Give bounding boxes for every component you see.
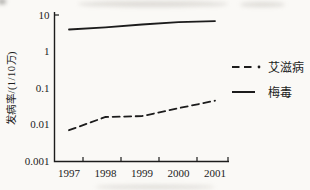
incidence-rate-chart: 1010.10.010.00119971998199920002001 发病率/… [0,0,310,190]
y-tick-label: 0.1 [36,82,50,94]
x-tick-label: 1998 [95,167,118,179]
x-tick-label: 2000 [168,167,191,179]
solid-line-sample [231,86,261,98]
series-line-0 [69,101,215,131]
axes [55,12,230,162]
y-axis-label: 发病率/(1/10万) [3,51,18,125]
x-tick-label: 1997 [58,167,81,179]
legend-item-aids: 艾滋病 [231,58,304,76]
y-tick-label: 1 [44,45,50,57]
legend-label-syphilis: 梅毒 [268,83,292,101]
y-tick-label: 0.001 [25,155,50,167]
legend-label-aids: 艾滋病 [268,58,304,76]
dashed-line-sample [231,61,261,73]
x-tick-label: 1999 [131,167,154,179]
legend: 艾滋病 梅毒 [231,58,304,101]
legend-item-syphilis: 梅毒 [231,83,304,101]
series-line-1 [69,21,215,29]
y-tick-label: 10 [39,9,51,21]
y-tick-label: 0.01 [30,118,49,130]
x-tick-label: 2001 [204,167,226,179]
